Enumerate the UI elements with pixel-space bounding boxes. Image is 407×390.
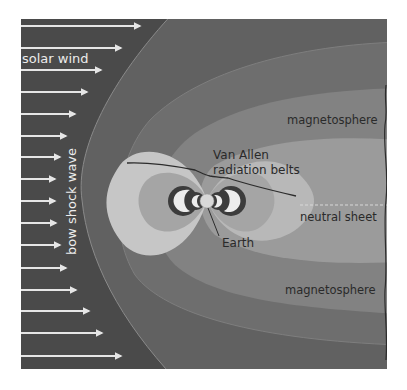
magnetosphere-top-label: magnetosphere bbox=[287, 113, 378, 127]
van-allen-label-line2: radiation belts bbox=[213, 163, 300, 177]
solar-wind-label: solar wind bbox=[22, 51, 89, 66]
earth bbox=[200, 194, 214, 208]
bow-shock-label: bow shock wave bbox=[64, 148, 79, 255]
magnetosphere-bottom-label: magnetosphere bbox=[285, 283, 376, 297]
neutral-sheet-label: neutral sheet bbox=[300, 210, 377, 224]
magnetosphere-diagram: solar wind bow shock wave Van Allen radi… bbox=[0, 0, 407, 390]
earth-label: Earth bbox=[222, 236, 254, 250]
van-allen-label-line1: Van Allen bbox=[213, 148, 269, 162]
